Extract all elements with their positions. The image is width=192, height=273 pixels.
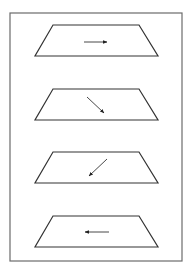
trapezoid-plane	[35, 216, 158, 247]
outer-frame	[10, 13, 182, 261]
arrow-down-left-icon	[89, 159, 107, 176]
plane-panel-1	[35, 25, 158, 56]
arrow-down-right-icon	[87, 97, 104, 113]
plane-panel-4	[35, 216, 158, 247]
diagram-canvas	[0, 0, 192, 273]
plane-panel-2	[35, 89, 158, 120]
trapezoid-plane	[35, 89, 158, 120]
trapezoid-plane	[35, 25, 158, 56]
panels-group	[35, 25, 158, 247]
trapezoid-plane	[35, 152, 158, 183]
plane-panel-3	[35, 152, 158, 183]
